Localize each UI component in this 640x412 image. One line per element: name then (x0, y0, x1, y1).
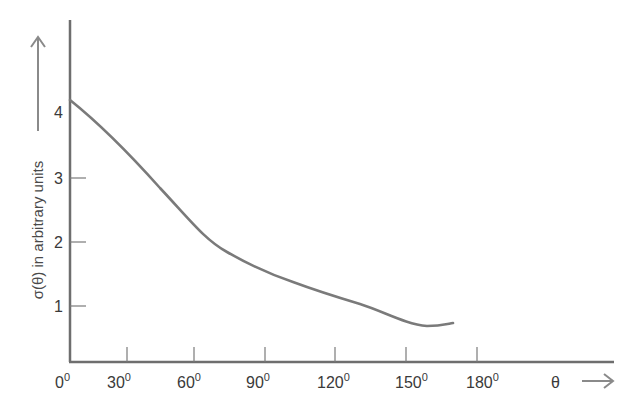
x-direction-arrow-icon (582, 374, 613, 388)
y-tick-label-3: 3 (54, 170, 63, 187)
x-tick-label-120: 120 (317, 374, 344, 391)
sigma-curve (70, 100, 453, 326)
x-tick-label-90: 90 (246, 374, 264, 391)
x-tick-labels: 00 300 600 900 1200 1500 1800 (55, 371, 499, 391)
chart: 4 3 2 1 00 300 600 900 1200 1500 1800 θ … (0, 0, 640, 412)
x-tick-label-150: 150 (395, 374, 422, 391)
y-direction-arrow-icon (31, 37, 45, 131)
y-axis-title: σ(θ) in arbitrary units (29, 161, 46, 299)
svg-text:00: 00 (55, 371, 70, 391)
x-tick-label-30: 30 (107, 374, 125, 391)
svg-text:300: 300 (107, 371, 131, 391)
y-tick-label-1: 1 (54, 298, 63, 315)
y-ticks (70, 178, 86, 306)
x-axis-title: θ (551, 374, 560, 391)
y-tick-label-4: 4 (54, 104, 63, 121)
x-ticks (127, 347, 477, 362)
svg-text:600: 600 (177, 371, 201, 391)
x-tick-label-0: 0 (55, 374, 64, 391)
svg-text:900: 900 (246, 371, 270, 391)
svg-text:1800: 1800 (466, 371, 499, 391)
x-tick-label-180: 180 (466, 374, 493, 391)
x-tick-label-60: 60 (177, 374, 195, 391)
svg-text:1500: 1500 (395, 371, 428, 391)
y-tick-label-2: 2 (54, 234, 63, 251)
svg-text:1200: 1200 (317, 371, 350, 391)
